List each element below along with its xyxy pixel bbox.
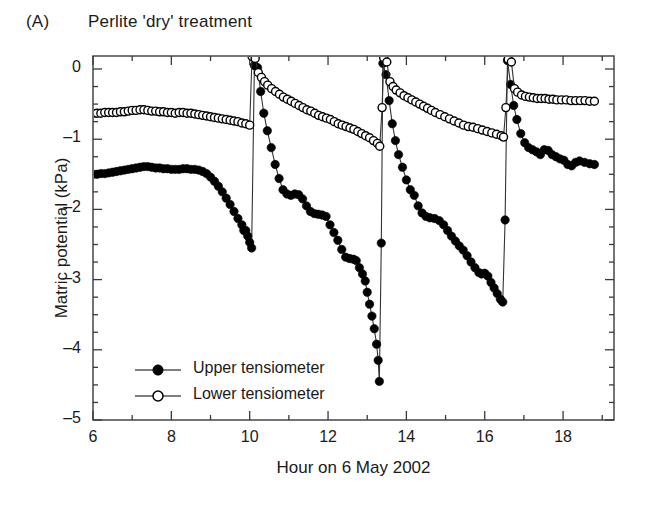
x-axis-tick-label: 16 xyxy=(465,428,505,446)
data-point-marker xyxy=(402,176,410,184)
data-series xyxy=(89,56,599,385)
data-point-marker xyxy=(378,104,386,112)
data-point-marker xyxy=(398,163,406,171)
data-point-marker xyxy=(391,136,399,144)
legend-marker-open-circle-icon xyxy=(153,391,163,401)
data-point-marker xyxy=(507,58,515,66)
data-point-marker xyxy=(372,340,380,348)
legend-item-label: Lower tensiometer xyxy=(193,385,325,403)
data-point-marker xyxy=(517,129,525,137)
data-point-marker xyxy=(267,143,275,151)
x-axis-tick-label: 18 xyxy=(543,428,583,446)
legend-marker-filled-circle-icon xyxy=(153,365,163,375)
data-point-marker xyxy=(322,212,330,220)
data-point-marker xyxy=(368,312,376,320)
data-point-marker xyxy=(271,160,279,168)
y-axis-tick-label: –3 xyxy=(41,269,81,287)
data-point-marker xyxy=(326,221,334,229)
data-point-marker xyxy=(246,121,254,129)
data-point-marker xyxy=(377,239,385,247)
data-point-marker xyxy=(376,142,384,150)
data-point-marker xyxy=(263,127,271,135)
data-point-marker xyxy=(370,325,378,333)
data-point-marker xyxy=(363,288,371,296)
data-point-marker xyxy=(590,160,598,168)
y-axis-tick-label: –5 xyxy=(41,409,81,427)
data-point-marker xyxy=(275,174,283,182)
data-point-marker xyxy=(501,216,509,224)
figure-panel-a: (A) Perlite 'dry' treatment Matric poten… xyxy=(0,0,647,506)
data-point-marker xyxy=(500,133,508,141)
data-point-marker xyxy=(499,298,507,306)
data-point-marker xyxy=(394,150,402,158)
data-point-marker xyxy=(590,97,598,105)
data-point-marker xyxy=(247,244,255,252)
x-axis-tick-label: 6 xyxy=(73,428,113,446)
data-point-marker xyxy=(510,101,518,109)
data-point-marker xyxy=(513,115,521,123)
data-point-marker xyxy=(338,245,346,253)
y-axis-tick-label: –4 xyxy=(41,339,81,357)
data-point-marker xyxy=(385,96,393,104)
data-point-marker xyxy=(383,58,391,66)
data-point-marker xyxy=(374,356,382,364)
legend-item-label: Upper tensiometer xyxy=(193,359,325,377)
y-axis-tick-label: 0 xyxy=(41,58,81,76)
x-axis-tick-label: 14 xyxy=(386,428,426,446)
y-axis-tick-label: –2 xyxy=(41,198,81,216)
data-point-marker xyxy=(330,228,338,236)
data-point-marker xyxy=(260,109,268,117)
data-point-marker xyxy=(361,277,369,285)
data-point-marker xyxy=(388,120,396,128)
series-group xyxy=(89,52,599,385)
data-point-marker xyxy=(502,104,510,112)
data-point-marker xyxy=(410,191,418,199)
data-point-marker xyxy=(365,300,373,308)
data-point-marker xyxy=(256,87,264,95)
data-point-marker xyxy=(375,377,383,385)
data-point-marker xyxy=(334,236,342,244)
y-axis-tick-label: –1 xyxy=(41,128,81,146)
x-axis-tick-label: 10 xyxy=(230,428,270,446)
x-axis-tick-label: 12 xyxy=(308,428,348,446)
x-axis-tick-label: 8 xyxy=(151,428,191,446)
